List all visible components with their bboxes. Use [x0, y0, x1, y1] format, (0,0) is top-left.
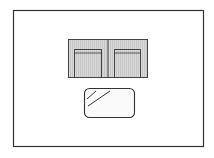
sofa-seat-right[interactable] — [115, 50, 141, 78]
room-boundary — [14, 11, 204, 147]
floor-plan-svg — [0, 0, 214, 158]
sofa-seat-left[interactable] — [75, 50, 102, 78]
floor-plan-canvas: Room layout with two-seat sofa and coffe… — [0, 0, 214, 158]
sofa[interactable] — [69, 40, 148, 78]
coffee-table[interactable] — [85, 89, 135, 118]
